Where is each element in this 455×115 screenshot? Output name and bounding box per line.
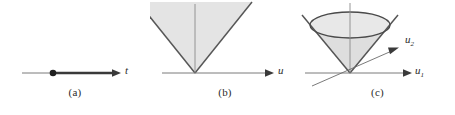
caption-c: (c)	[300, 86, 455, 98]
panel-c: u1 u2 (c)	[300, 0, 455, 115]
u2-axis-arrowhead	[388, 47, 399, 54]
axis-label-u: u	[278, 64, 284, 76]
t-axis-arrowhead	[112, 69, 121, 77]
origin-point	[50, 70, 57, 77]
axis-label-t: t	[125, 64, 128, 76]
u1-axis-arrowhead	[403, 69, 412, 77]
axis-label-u1: u1	[415, 64, 424, 79]
caption-a: (a)	[0, 86, 150, 98]
panel-b: u (b)	[150, 0, 300, 115]
figure-container: t (a) u (b)	[0, 0, 455, 115]
axis-label-u2: u2	[405, 33, 414, 48]
wedge-fill	[150, 2, 252, 73]
panel-a: t (a)	[0, 0, 150, 115]
axis-label-u2-subscript: 2	[411, 40, 415, 48]
axis-label-u1-subscript: 1	[421, 71, 425, 79]
u-axis-arrowhead	[265, 69, 274, 77]
caption-b: (b)	[150, 86, 300, 98]
